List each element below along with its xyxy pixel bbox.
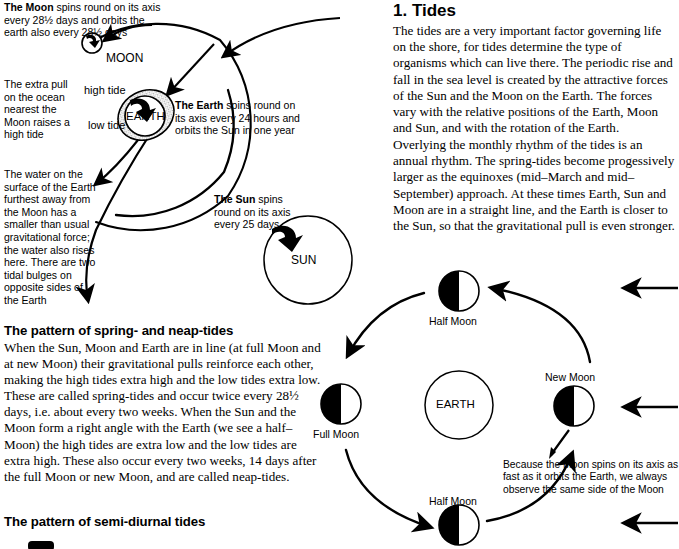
earth-orbit-incoming-arrow: [224, 18, 340, 56]
sun-annotation: The Sun spins round on its axis every 25…: [214, 193, 300, 231]
arrow-to-earth: [168, 44, 214, 94]
earth-annotation-lead: The Earth: [175, 99, 223, 111]
far-bulge-annotation: The water on the surface of the Earth fu…: [4, 168, 100, 307]
moon-annotation: The Moon spins round on its axis every 2…: [4, 1, 164, 39]
high-tide-label: high tide: [84, 84, 126, 96]
moon-annotation-lead: The Moon: [4, 1, 54, 13]
semi-diurnal-figure-crop: [28, 541, 54, 549]
phase-caption: Because the Moon spins on its axis as fa…: [503, 459, 679, 496]
moon-label: MOON: [106, 51, 143, 65]
phase-label-half-moon-top: Half Moon: [429, 315, 477, 327]
tides-paragraph-2: Overlying the monthly rhythm of the tide…: [393, 137, 678, 234]
sun-annotation-lead: The Sun: [214, 193, 255, 205]
paragraph-spring-neap: When the Sun, Moon and Earth are in line…: [4, 340, 324, 485]
far-bulge-annotation-text: The water on the surface of the Earth fu…: [4, 168, 96, 306]
heading-semi-diurnal: The pattern of semi-diurnal tides: [4, 514, 334, 529]
phase-moon-half-top: [439, 271, 479, 311]
high-tide-annotation: The extra pull on the ocean nearest the …: [4, 78, 82, 141]
page-title: 1. Tides: [393, 1, 456, 21]
phase-label-new-moon: New Moon: [545, 371, 595, 383]
tides-paragraph-1: The tides are a very important factor go…: [393, 23, 675, 136]
earth-annotation: The Earth spins round on its axis every …: [175, 99, 305, 137]
sun-label: SUN: [291, 253, 316, 267]
phase-label-half-moon-bottom: Half Moon: [429, 495, 477, 507]
low-tide-label: low tide: [88, 119, 125, 131]
phase-moon-full-left: [321, 384, 361, 424]
phase-caption-leader: [549, 430, 569, 459]
phase-label-full-moon: Full Moon: [313, 428, 359, 440]
high-tide-annotation-text: The extra pull on the ocean nearest the …: [4, 78, 70, 140]
heading-spring-neap: The pattern of spring- and neap-tides: [4, 323, 334, 338]
phase-earth-label: EARTH: [436, 398, 475, 410]
earth-label: EARTH: [126, 110, 165, 122]
phase-moon-half-bottom: [439, 505, 479, 545]
phase-moon-new-right: [554, 386, 594, 426]
